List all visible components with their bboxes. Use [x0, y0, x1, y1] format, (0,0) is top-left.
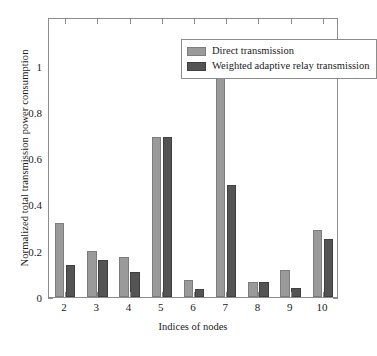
x-axis-tick-label: 10: [307, 302, 337, 313]
y-axis-tick-label: 0.4: [8, 200, 42, 211]
x-axis-tick-mark: [162, 292, 163, 297]
bar: [55, 223, 65, 297]
bar: [195, 289, 205, 297]
x-axis-tick-mark: [130, 292, 131, 297]
x-axis-tick-label: 2: [49, 302, 79, 313]
legend-label-weighted-adaptive-relay-transmission: Weighted adaptive relay transmission: [212, 61, 370, 72]
x-axis-tick-label: 3: [81, 302, 111, 313]
x-axis-tick-mark-top: [162, 19, 163, 24]
bar: [163, 137, 173, 297]
legend-item-weighted-adaptive-relay-transmission: Weighted adaptive relay transmission: [187, 59, 370, 74]
x-axis-tick-label: 5: [146, 302, 176, 313]
x-axis-tick-mark-top: [323, 19, 324, 24]
bar: [98, 260, 108, 297]
x-axis-tick-label: 8: [242, 302, 272, 313]
bar: [66, 265, 76, 297]
x-axis-tick-mark-top: [65, 19, 66, 24]
x-axis-tick-label: 6: [178, 302, 208, 313]
y-axis-tick-label: 0.6: [8, 154, 42, 165]
bar: [227, 185, 237, 297]
legend-item-direct-transmission: Direct transmission: [187, 44, 370, 59]
y-axis-tick-label: 0: [8, 293, 42, 304]
x-axis-tick-mark: [258, 292, 259, 297]
x-axis-tick-mark-top: [226, 19, 227, 24]
bar: [291, 288, 301, 297]
x-axis-tick-label: 4: [114, 302, 144, 313]
y-axis-tick-mark-right: [333, 298, 338, 299]
bar: [259, 282, 269, 297]
x-axis-tick-mark: [194, 292, 195, 297]
x-axis-tick-mark-top: [97, 19, 98, 24]
x-axis-tick-mark: [65, 292, 66, 297]
x-axis-tick-mark-top: [130, 19, 131, 24]
bar: [313, 230, 323, 297]
x-axis-tick-mark: [323, 292, 324, 297]
bar: [152, 137, 162, 297]
y-axis-tick-label: 0.8: [8, 108, 42, 119]
x-axis-tick-mark: [226, 292, 227, 297]
y-axis-tick-mark: [48, 298, 53, 299]
bar: [216, 66, 226, 297]
y-axis-tick-label: 1: [8, 62, 42, 73]
x-axis-tick-mark-top: [194, 19, 195, 24]
bar: [130, 272, 140, 297]
bar: [184, 280, 194, 297]
bar: [119, 257, 129, 297]
plot-area: Direct transmission Weighted adaptive re…: [48, 18, 338, 298]
x-axis-tick-mark: [291, 292, 292, 297]
bar: [87, 251, 97, 297]
x-axis-tick-label: 9: [275, 302, 305, 313]
x-axis-tick-label: 7: [210, 302, 240, 313]
x-axis-tick-mark-top: [291, 19, 292, 24]
chart-legend: Direct transmission Weighted adaptive re…: [181, 39, 377, 79]
bar: [280, 270, 290, 297]
x-axis-tick-mark-top: [258, 19, 259, 24]
x-axis-label: Indices of nodes: [48, 322, 338, 333]
bar: [248, 282, 258, 297]
legend-label-direct-transmission: Direct transmission: [212, 46, 294, 57]
bar: [324, 239, 334, 297]
x-axis-tick-mark: [97, 292, 98, 297]
y-axis-tick-label: 0.2: [8, 247, 42, 258]
legend-swatch-icon-weighted-adaptive-relay-transmission: [187, 62, 206, 71]
legend-swatch-icon-direct-transmission: [187, 47, 206, 56]
